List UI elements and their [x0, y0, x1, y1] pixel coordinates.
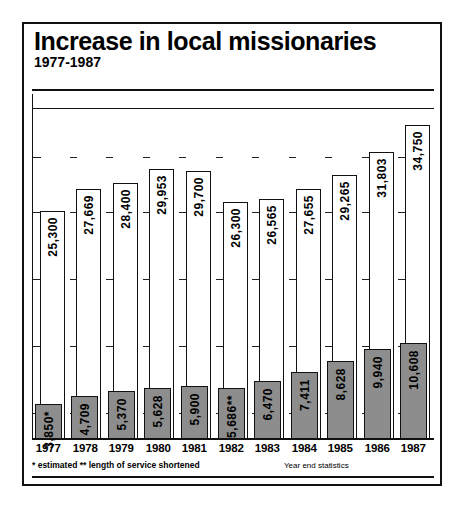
gridline-segment — [33, 212, 40, 213]
bar-local: 3,850* — [35, 404, 62, 439]
bar-value-label: 29,265 — [338, 181, 352, 221]
bar-value-label: 25,300 — [46, 217, 60, 257]
gridline-segment — [216, 157, 223, 158]
x-tick-label-1980: 1980 — [140, 442, 177, 454]
bar-value-label: 6,470 — [261, 388, 275, 421]
footnote-source: Year end statistics — [284, 461, 349, 470]
bar-value-label: 5,686** — [225, 395, 239, 438]
gridline-segment — [362, 157, 369, 158]
gridline-segment — [398, 279, 405, 280]
gridline-segment — [289, 157, 296, 158]
bar-local: 9,940 — [364, 349, 391, 439]
bar-value-label: 5,370 — [115, 398, 129, 431]
gridline-segment — [216, 346, 223, 347]
gridline-segment — [252, 279, 259, 280]
gridline-segment — [325, 212, 332, 213]
x-tick-label-1978: 1978 — [67, 442, 104, 454]
gridline-segment — [252, 212, 259, 213]
bar-value-label: 28,400 — [119, 189, 133, 229]
bar-value-label: 7,411 — [298, 379, 312, 411]
bar-value-label: 29,700 — [192, 177, 206, 217]
x-tick-label-1982: 1982 — [213, 442, 250, 454]
plot-area: 25,3003,850*27,6694,70928,4005,37029,953… — [32, 94, 434, 440]
bar-local: 5,370 — [108, 391, 135, 439]
gridline-segment — [143, 279, 150, 280]
x-tick-label-1986: 1986 — [359, 442, 396, 454]
gridline-segment — [289, 212, 296, 213]
bar-value-label: 34,750 — [411, 131, 425, 171]
bar-local: 4,709 — [71, 396, 98, 439]
gridline-segment — [325, 346, 332, 347]
bar-local: 7,411 — [291, 372, 318, 439]
y-axis — [32, 94, 33, 440]
gridline-segment — [143, 212, 150, 213]
gridline-segment — [216, 212, 223, 213]
gridline-segment — [216, 279, 223, 280]
footnote-legend: * estimated ** length of service shorten… — [32, 460, 200, 470]
x-tick-label-1985: 1985 — [322, 442, 359, 454]
bar-local: 5,686** — [218, 388, 245, 439]
x-tick-label-1977: 1977 — [30, 442, 67, 454]
bar-value-label: 29,953 — [155, 175, 169, 215]
chart-page: Increase in local missionaries 1977-1987… — [0, 0, 455, 506]
x-tick-label-1983: 1983 — [249, 442, 286, 454]
gridline-segment — [362, 212, 369, 213]
x-tick-label-1981: 1981 — [176, 442, 213, 454]
gridline-segment — [33, 279, 40, 280]
gridline-segment — [33, 346, 40, 347]
gridline-segment — [33, 157, 40, 158]
gridline-segment — [179, 157, 186, 158]
gridline-segment — [362, 279, 369, 280]
gridline-segment — [70, 279, 77, 280]
gridline-segment — [70, 157, 77, 158]
gridline-segment — [398, 157, 405, 158]
bar-value-label: 31,803 — [375, 158, 389, 198]
bar-value-label: 27,655 — [302, 195, 316, 235]
bar-value-label: 4,709 — [78, 403, 92, 436]
gridline-segment — [289, 279, 296, 280]
gridline-segment — [106, 157, 113, 158]
footnote-row: * estimated ** length of service shorten… — [32, 460, 434, 476]
gridline-segment — [325, 157, 332, 158]
bar-value-label: 26,565 — [265, 205, 279, 245]
gridline-segment — [179, 346, 186, 347]
bar-value-label: 26,300 — [229, 208, 243, 248]
gridline-segment — [70, 212, 77, 213]
gridline-segment — [179, 212, 186, 213]
bar-value-label: 8,628 — [334, 368, 348, 401]
gridline-segment — [143, 157, 150, 158]
title-divider — [32, 89, 434, 91]
bar-value-label: 9,940 — [371, 356, 385, 389]
chart-header: Increase in local missionaries 1977-1987 — [34, 28, 430, 70]
x-tick-label-1979: 1979 — [103, 442, 140, 454]
bar-local: 8,628 — [327, 361, 354, 439]
bar-local: 6,470 — [254, 381, 281, 439]
gridline-segment — [252, 157, 259, 158]
bar-value-label: 10,608 — [407, 350, 421, 390]
bar-local: 10,608 — [400, 343, 427, 439]
gridline-segment — [362, 346, 369, 347]
bottom-divider — [32, 476, 434, 478]
gridline-segment — [179, 279, 186, 280]
bar-value-label: 5,628 — [151, 395, 165, 428]
bar-value-label: 27,669 — [82, 195, 96, 235]
gridline-segment — [143, 346, 150, 347]
gridline-segment — [106, 279, 113, 280]
x-tick-label-1987: 1987 — [395, 442, 432, 454]
x-axis-tick-labels: 1977197819791980198119821983198419851986… — [32, 442, 434, 458]
page-title: Increase in local missionaries — [34, 28, 430, 55]
gridline-top — [32, 108, 434, 109]
bar-value-label: 5,900 — [188, 393, 202, 426]
gridline-segment — [325, 279, 332, 280]
gridline-segment — [106, 346, 113, 347]
page-subtitle: 1977-1987 — [34, 55, 430, 70]
bar-local: 5,628 — [144, 388, 171, 439]
bar-local: 5,900 — [181, 386, 208, 439]
gridline-segment — [398, 212, 405, 213]
gridline-segment — [70, 346, 77, 347]
gridline-segment — [289, 346, 296, 347]
chart-frame: Increase in local missionaries 1977-1987… — [22, 22, 442, 486]
x-tick-label-1984: 1984 — [286, 442, 323, 454]
gridline-segment — [106, 212, 113, 213]
gridline-segment — [252, 346, 259, 347]
